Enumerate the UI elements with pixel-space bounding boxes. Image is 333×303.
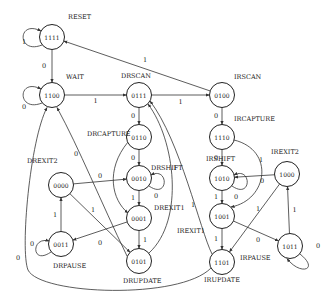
state-irexit2: 1000 <box>275 162 300 187</box>
transition-label: 1 <box>292 206 296 214</box>
state-code: 0110 <box>131 134 146 141</box>
state-name: DREXIT2 <box>27 157 58 165</box>
state-code: 0000 <box>53 182 68 189</box>
state-reset: 1111 <box>40 25 65 50</box>
state-name: DREXIT1 <box>154 204 185 212</box>
state-code: 1000 <box>279 171 294 178</box>
transition-label: 1 <box>143 56 147 64</box>
state-name: WAIT <box>66 73 85 81</box>
transition-label: 1 <box>214 193 218 201</box>
transition-label: 0 <box>316 242 320 250</box>
state-code: 0101 <box>131 258 146 265</box>
transition-label: 1 <box>131 194 135 202</box>
state-code: 1100 <box>44 92 59 99</box>
state-code: 1110 <box>214 134 229 141</box>
state-code: 1010 <box>214 175 229 182</box>
state-drpause: 0011 <box>49 232 74 257</box>
transition-label: 0 <box>131 154 135 162</box>
state-code: 1111 <box>44 34 59 41</box>
state-name: IREXIT2 <box>271 148 299 156</box>
state-name: RESET <box>68 13 92 21</box>
state-name: DRPAUSE <box>53 262 87 270</box>
transition-label: 0 <box>74 150 78 158</box>
transition-label: 1 <box>22 38 26 46</box>
transition-label: 1 <box>191 201 195 209</box>
state-name: DRSCAN <box>121 72 151 80</box>
transition-label: 0 <box>256 236 260 244</box>
state-name: IRUPDATE <box>204 276 240 284</box>
state-irscan: 0100 <box>210 83 235 108</box>
transition-label: 0 <box>16 254 20 262</box>
transition-label: 0 <box>154 192 158 200</box>
transition-label: 0 <box>260 177 264 185</box>
transition-label: 0 <box>30 240 34 248</box>
state-code: 1001 <box>214 213 229 220</box>
transition-label: 0 <box>234 193 238 201</box>
state-code: 0011 <box>53 241 68 248</box>
state-irpause: 1011 <box>278 234 303 259</box>
transition-0000-0010 <box>73 179 126 184</box>
state-code: 0111 <box>131 92 146 99</box>
transition-label: 1 <box>256 205 260 213</box>
state-name: DRCAPTURE <box>87 130 131 138</box>
state-code: 1011 <box>282 243 297 250</box>
transition-0110-0001 <box>113 142 128 213</box>
state-name: IRCAPTURE <box>234 115 275 123</box>
state-wait: 1100 <box>40 83 65 108</box>
transition-0001-0011 <box>73 222 127 240</box>
state-ircapture: 1110 <box>210 125 235 150</box>
state-code: 0010 <box>131 175 146 182</box>
state-name: IREXIT1 <box>177 227 205 235</box>
transition-label: 0 <box>22 103 26 111</box>
transition-label: 1 <box>53 211 57 219</box>
state-drexit2: 0000 <box>49 173 74 198</box>
state-name: IRSCAN <box>234 73 262 81</box>
transition-1000-1010 <box>234 175 274 177</box>
transition-label: 1 <box>91 206 95 214</box>
state-drupdate: 0101 <box>127 249 152 274</box>
state-drexit1: 0001 <box>127 206 152 231</box>
state-code: 0100 <box>214 92 229 99</box>
transition-1011-1000 <box>288 186 290 233</box>
state-irupdate: 1101 <box>210 250 235 275</box>
transition-label: 1 <box>178 98 182 106</box>
state-name: DRSHIFT <box>151 164 183 172</box>
transition-label: 1 <box>214 235 218 243</box>
state-name: IRPAUSE <box>240 254 271 262</box>
transition-label: 1 <box>259 156 263 164</box>
transition-label: 0 <box>98 172 102 180</box>
transition-label: 0 <box>98 239 102 247</box>
transition-label: 0 <box>42 62 46 70</box>
transition-label: 0 <box>131 112 135 120</box>
state-diagram: 10011010010110010101010110010110 1111110… <box>0 0 333 303</box>
state-drshift: 0010 <box>127 166 152 191</box>
state-drscan: 0111 <box>127 83 152 108</box>
state-code: 1101 <box>214 259 229 266</box>
state-irshift: 1010 <box>210 166 235 191</box>
state-name: DRUPDATE <box>123 277 162 285</box>
state-name: IRSHIFT <box>206 155 236 163</box>
state-code: 0001 <box>131 215 146 222</box>
transition-label: 1 <box>143 236 147 244</box>
transition-label: 1 <box>93 97 97 105</box>
state-irexit1: 1001 <box>210 204 235 229</box>
transition-label: 0 <box>214 112 218 120</box>
